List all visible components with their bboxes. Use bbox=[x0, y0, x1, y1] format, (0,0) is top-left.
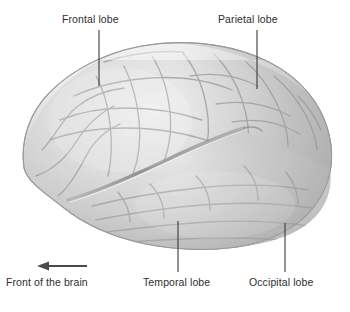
brain-shading bbox=[24, 40, 340, 255]
label-parietal-lobe: Parietal lobe bbox=[218, 13, 278, 25]
label-temporal-lobe: Temporal lobe bbox=[143, 276, 210, 288]
label-occipital-lobe: Occipital lobe bbox=[249, 276, 313, 288]
brain-illustration bbox=[0, 0, 350, 312]
label-frontal-lobe: Frontal lobe bbox=[62, 13, 119, 25]
front-of-brain-arrow bbox=[37, 262, 87, 271]
label-front-of-the-brain: Front of the brain bbox=[6, 276, 88, 288]
brain-anatomy-figure: Frontal lobe Parietal lobe Temporal lobe… bbox=[0, 0, 350, 312]
cerebrum bbox=[23, 40, 340, 255]
